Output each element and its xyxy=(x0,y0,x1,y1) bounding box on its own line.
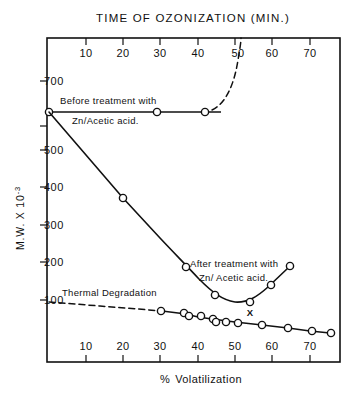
data-point xyxy=(212,318,219,325)
data-point xyxy=(153,108,160,115)
x-axis-title-percent: % xyxy=(160,373,170,385)
top-axis-ticks xyxy=(86,38,310,45)
data-point xyxy=(157,307,164,314)
annotation-after-treatment-line1: After treatment with xyxy=(190,258,278,269)
left-tick-label-300: 300 xyxy=(44,219,64,231)
x-marker: X xyxy=(247,307,254,318)
top-tick-label-10: 10 xyxy=(79,47,92,59)
y-axis-title-exponent: -3 xyxy=(13,186,22,194)
left-tick-label-100: 100 xyxy=(44,294,64,306)
data-point xyxy=(182,263,189,270)
top-tick-label-40: 40 xyxy=(191,47,204,59)
data-point xyxy=(201,108,208,115)
bottom-tick-label-20: 20 xyxy=(116,340,129,352)
annotation-thermal-degradation: Thermal Degradation xyxy=(62,287,157,298)
data-point xyxy=(185,312,192,319)
data-point xyxy=(211,291,218,298)
data-point xyxy=(222,318,229,325)
left-tick-label-200: 200 xyxy=(44,256,64,268)
left-tick-label-400: 400 xyxy=(44,181,64,193)
data-point xyxy=(258,321,265,328)
bottom-axis-ticks xyxy=(86,355,310,362)
data-point xyxy=(284,324,291,331)
bottom-tick-label-40: 40 xyxy=(191,340,204,352)
y-axis-title-main: M.W. X 10 xyxy=(14,194,26,250)
annotation-after-treatment-line2: Zn/ Acetic acid. xyxy=(199,272,268,283)
bottom-tick-label-60: 60 xyxy=(265,340,278,352)
data-point xyxy=(327,329,334,336)
top-tick-label-30: 30 xyxy=(153,47,166,59)
top-tick-label-20: 20 xyxy=(116,47,129,59)
bottom-tick-label-30: 30 xyxy=(153,340,166,352)
top-axis-tick-labels: 10 20 30 40 50 60 70 xyxy=(79,47,316,59)
svg-text:M.W. X 10-3: M.W. X 10-3 xyxy=(13,186,26,250)
data-point xyxy=(234,319,241,326)
x-axis-title: %Volatilization xyxy=(160,373,242,385)
bottom-tick-label-50: 50 xyxy=(228,340,241,352)
svg-text:%Volatilization: %Volatilization xyxy=(160,373,242,385)
left-tick-label-700: 700 xyxy=(44,75,64,87)
data-point xyxy=(246,298,253,305)
annotation-before-treatment-line1: Before treatment with xyxy=(60,95,157,106)
bottom-tick-label-70: 70 xyxy=(303,340,316,352)
data-point xyxy=(308,327,315,334)
data-point xyxy=(119,194,126,201)
x-axis-title-text: Volatilization xyxy=(175,373,242,385)
chart-title: TIME OF OZONIZATION (MIN.) xyxy=(96,12,290,24)
left-tick-label-500: 500 xyxy=(44,144,64,156)
y-axis-title: M.W. X 10-3 xyxy=(13,186,26,250)
data-point xyxy=(267,281,274,288)
ozonization-molecular-weight-chart: TIME OF OZONIZATION (MIN.) 10 20 30 40 5… xyxy=(0,0,358,400)
bottom-tick-label-10: 10 xyxy=(79,340,92,352)
thermal-degradation-dashed-line xyxy=(49,302,162,311)
plot-frame xyxy=(47,38,340,362)
figure-container: TIME OF OZONIZATION (MIN.) 10 20 30 40 5… xyxy=(0,0,358,400)
top-tick-label-60: 60 xyxy=(265,47,278,59)
annotation-before-treatment-line2: Zn/Acetic acid. xyxy=(72,115,139,126)
top-tick-label-70: 70 xyxy=(303,47,316,59)
bottom-axis-tick-labels: 10 20 30 40 50 60 70 xyxy=(79,340,316,352)
data-point xyxy=(197,312,204,319)
data-point xyxy=(286,262,293,269)
